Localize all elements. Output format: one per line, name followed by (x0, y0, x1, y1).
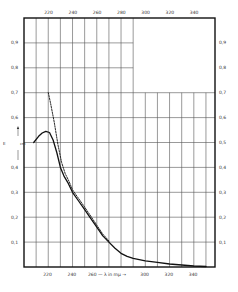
y-tick-right: 0,3 (219, 190, 226, 195)
y-tick-right: 0,9 (219, 40, 226, 45)
y-tick-left: 0,7 (11, 90, 18, 95)
y-tick-left: 0,3 (11, 190, 18, 195)
y-tick-right: 0,4 (219, 165, 226, 170)
x-tick-top: 280 (117, 10, 126, 15)
y-tick-left: 0,2 (11, 215, 18, 220)
y-tick-left: 0,6 (11, 115, 18, 120)
y-tick-right: 0,8 (219, 65, 226, 70)
y-tick-right: 0,6 (219, 115, 226, 120)
y-tick-left: 0,4 (11, 165, 18, 170)
x-tick-top: 300 (141, 10, 150, 15)
absorption-chart: 2202402602803003203402202403003203400,90… (0, 0, 238, 292)
x-axis-label: 260 — λ in mμ → (88, 272, 126, 277)
x-tick-top: 340 (190, 10, 199, 15)
x-tick-bottom: 220 (43, 272, 52, 277)
y-tick-right: 0,5 (219, 140, 226, 145)
x-tick-bottom: 300 (140, 272, 149, 277)
x-tick-bottom: 240 (68, 272, 77, 277)
arrow-head-icon (17, 126, 19, 129)
x-tick-top: 240 (69, 10, 78, 15)
x-tick-top: 320 (166, 10, 175, 15)
x-tick-top: 260 (93, 10, 102, 15)
y-tick-right: 0,1 (219, 240, 226, 245)
data-series (34, 93, 206, 267)
series-extrapolated (48, 93, 109, 241)
y-tick-left: 0,1 (11, 240, 18, 245)
y-tick-right: 0,2 (219, 215, 226, 220)
y-tick-left: 0,8 (11, 65, 18, 70)
x-tick-bottom: 320 (165, 272, 174, 277)
y-tick-left: 0,9 (11, 40, 18, 45)
y-axis-label-text: E (3, 141, 6, 146)
grid-lines (24, 18, 215, 267)
y-axis-label: E (3, 126, 19, 160)
x-tick-bottom: 340 (189, 272, 198, 277)
y-unit-label: cm (20, 142, 26, 146)
y-tick-right: 0,7 (219, 90, 226, 95)
x-tick-top: 220 (44, 10, 53, 15)
